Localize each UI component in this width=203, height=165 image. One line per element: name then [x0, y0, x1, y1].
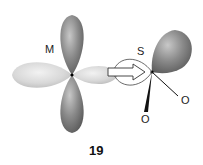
figure-number: 19 — [89, 144, 103, 157]
so-bond-right — [152, 72, 178, 96]
sulfur-lobe — [152, 30, 192, 73]
sulfur-label: S — [137, 46, 144, 57]
orbital-diagram — [0, 0, 203, 165]
left-lobe — [12, 62, 72, 88]
top-lobe — [60, 15, 83, 75]
bottom-lobe — [60, 75, 83, 133]
so-bond-wedge — [144, 72, 152, 112]
oxygen-label-right: O — [181, 95, 190, 106]
metal-label: M — [45, 44, 54, 55]
oxygen-label-bottom: O — [141, 114, 150, 125]
metal-d-orbital — [12, 15, 118, 133]
sulfur-orbital — [150, 30, 191, 74]
